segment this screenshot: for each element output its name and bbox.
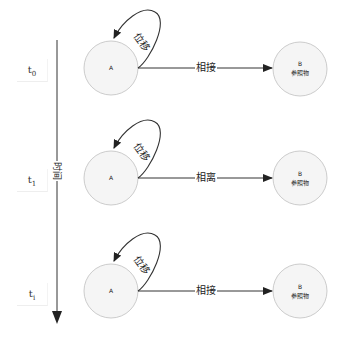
relation-label: 相离 bbox=[195, 172, 217, 184]
time-label-t1: t1 bbox=[17, 169, 48, 192]
time-label-sub: i bbox=[33, 294, 35, 302]
time-axis-label: 时间 bbox=[51, 161, 63, 181]
node-b-label: B 参照物 bbox=[280, 169, 320, 187]
time-label-sub: 0 bbox=[32, 70, 36, 78]
node-b-name: B bbox=[280, 59, 320, 68]
row-t1 bbox=[84, 120, 327, 205]
time-label-t0: t0 bbox=[17, 59, 48, 82]
row-t0 bbox=[84, 10, 327, 96]
node-a-label: A bbox=[101, 173, 121, 182]
relation-label: 相接 bbox=[195, 285, 217, 297]
node-a-label: A bbox=[101, 63, 121, 72]
relation-label: 相接 bbox=[195, 62, 217, 74]
node-b-name: B bbox=[280, 282, 320, 291]
time-label-sub: 1 bbox=[32, 180, 36, 188]
node-b-sublabel: 参照物 bbox=[280, 178, 320, 187]
node-b-sublabel: 参照物 bbox=[280, 68, 320, 77]
diagram-canvas: 时间 t0 t1 ti A B 参照物 位移 相接 A B 参照物 位移 相离 … bbox=[0, 0, 349, 342]
time-axis-arrowhead-icon bbox=[52, 311, 62, 324]
node-b-label: B 参照物 bbox=[280, 59, 320, 77]
row-ti bbox=[84, 233, 327, 318]
node-b-name: B bbox=[280, 169, 320, 178]
time-label-ti: ti bbox=[17, 283, 48, 306]
node-b-label: B 参照物 bbox=[280, 282, 320, 300]
node-b-sublabel: 参照物 bbox=[280, 291, 320, 300]
node-a-label: A bbox=[101, 286, 121, 295]
